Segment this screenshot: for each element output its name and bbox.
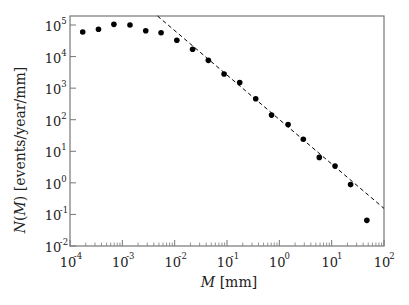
data-point <box>221 71 227 77</box>
y-tick-exponent: 3 <box>61 79 66 89</box>
y-tick-label: 10 <box>45 82 62 97</box>
data-point <box>285 122 291 128</box>
data-point <box>158 30 164 36</box>
data-point <box>269 112 275 118</box>
y-tick-label: 10 <box>45 19 62 34</box>
x-tick-exponent: 2 <box>389 251 394 261</box>
y-tick-label: 10 <box>45 51 62 66</box>
data-point <box>111 22 117 28</box>
x-tick-exponent: 1 <box>337 251 342 261</box>
x-tick-exponent: -2 <box>179 251 187 261</box>
y-tick-label: 10 <box>45 145 62 160</box>
y-tick-label: 10 <box>45 114 62 129</box>
x-axis-label: M [mm] <box>200 274 257 290</box>
y-tick-label: 10 <box>45 177 62 192</box>
data-point <box>364 218 370 224</box>
y-tick-exponent: 5 <box>61 16 66 26</box>
data-point <box>143 28 149 34</box>
x-tick-exponent: 0 <box>285 251 290 261</box>
data-point <box>96 27 102 33</box>
chart: 10-410-310-210-1100101102 10-210-1100101… <box>0 0 409 305</box>
y-tick-exponent: -1 <box>60 205 68 215</box>
x-tick-exponent: -3 <box>126 251 134 261</box>
data-point <box>253 96 259 102</box>
data-point <box>174 37 180 43</box>
y-tick-exponent: 2 <box>61 111 66 121</box>
x-tick-label: 10 <box>269 255 286 270</box>
y-tick-exponent: -2 <box>60 237 68 247</box>
chart-svg: 10-410-310-210-1100101102 10-210-1100101… <box>0 0 409 305</box>
y-tick-exponent: 0 <box>61 174 66 184</box>
data-point <box>300 136 306 142</box>
x-tick-label: 10 <box>374 255 391 270</box>
data-point <box>316 155 322 161</box>
data-point <box>348 182 354 188</box>
data-point <box>80 29 86 35</box>
y-tick-exponent: 4 <box>61 48 66 58</box>
x-tick-exponent: -4 <box>74 251 82 261</box>
y-tick-label: 10 <box>45 240 62 255</box>
y-tick-exponent: 1 <box>61 142 66 152</box>
data-point <box>206 58 212 64</box>
data-point <box>332 163 338 169</box>
y-tick-label: 10 <box>45 208 62 223</box>
y-axis-label: N(M) [events/year/mm] <box>12 67 28 234</box>
data-point <box>190 46 196 52</box>
x-tick-exponent: -1 <box>231 251 239 261</box>
data-point <box>237 80 243 86</box>
data-point <box>127 22 133 28</box>
x-tick-label: 10 <box>321 255 338 270</box>
